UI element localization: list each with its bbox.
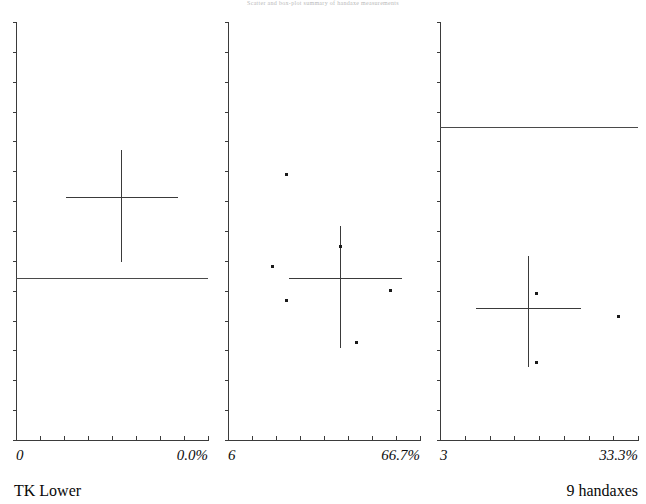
panel-3-y-tick — [437, 410, 441, 411]
panel-3-x-tick — [465, 436, 466, 441]
panel-2-x-tick — [300, 436, 301, 441]
panel-3-error-bar-horizontal — [476, 308, 581, 309]
panel-1-y-tick — [13, 410, 17, 411]
panel-3-data-point — [535, 361, 538, 364]
panel-3-y-tick — [437, 82, 441, 83]
panel-3-y-tick — [437, 171, 441, 172]
panel-1-x-tick — [208, 436, 209, 441]
figure-canvas: Scatter and box-plot summary of handaxe … — [0, 0, 646, 504]
panel-2-data-point — [271, 265, 274, 268]
panel-2-y-tick — [225, 380, 229, 381]
panel-2-y-tick — [225, 201, 229, 202]
panel-1-y-tick — [13, 22, 17, 23]
panel-1-x-tick — [136, 436, 137, 441]
panel-3-y-tick — [437, 22, 441, 23]
panel-1-y-tick — [13, 112, 17, 113]
panel-3-x-min-label: 3 — [440, 447, 448, 464]
panel-2-data-point — [355, 341, 358, 344]
panel-1-x-max-label: 0.0% — [108, 447, 208, 464]
panel-2-y-tick — [225, 410, 229, 411]
panel-2-x-tick — [396, 436, 397, 441]
panel-2-y-tick — [225, 291, 229, 292]
panel-3-x-tick — [514, 436, 515, 441]
panel-1-y-tick — [13, 261, 17, 262]
panel-3-y-tick — [437, 112, 441, 113]
panel-2-y-tick — [225, 22, 229, 23]
panel-2-y-tick — [225, 141, 229, 142]
panel-1-y-tick — [13, 141, 17, 142]
panel-2-data-point — [339, 245, 342, 248]
panel-3-x-max-label: 33.3% — [538, 447, 638, 464]
panel-3-y-tick — [437, 52, 441, 53]
panel-1-y-tick — [13, 231, 17, 232]
panel-2-x-min-label: 6 — [228, 447, 236, 464]
panel-3-x-tick — [613, 436, 614, 441]
panel-3-y-tick — [437, 261, 441, 262]
panel-2-data-point — [285, 173, 288, 176]
panel-2-x-tick — [372, 436, 373, 441]
caption-bottom-right: 9 handaxes — [508, 481, 638, 500]
panel-2-y-tick — [225, 52, 229, 53]
panel-2-x-tick — [276, 436, 277, 441]
panel-1-x-tick — [40, 436, 41, 441]
panel-3-y-tick — [437, 350, 441, 351]
panel-1-error-bar-vertical — [121, 150, 122, 262]
panel-1-error-bar-horizontal — [66, 197, 178, 198]
panel-1-x-tick — [88, 436, 89, 441]
panel-3-y-tick — [437, 380, 441, 381]
panel-3-data-point — [535, 292, 538, 295]
panel-1-x-tick — [160, 436, 161, 441]
panel-3-y-tick — [437, 321, 441, 322]
panel-2-x-tick — [324, 436, 325, 441]
panel-2-x-tick — [252, 436, 253, 441]
panel-3-x-tick — [539, 436, 540, 441]
panel-3-x-tick — [589, 436, 590, 441]
panel-2-y-tick — [225, 231, 229, 232]
panel-1-y-tick — [13, 171, 17, 172]
panel-1-y-tick — [13, 201, 17, 202]
panel-2-y-tick — [225, 82, 229, 83]
panel-1-y-tick — [13, 380, 17, 381]
panel-2-y-tick — [225, 112, 229, 113]
panel-1-y-tick — [13, 291, 17, 292]
panel-1-x-tick — [184, 436, 185, 441]
panel-1-x-min-label: 0 — [16, 447, 24, 464]
panel-3-y-tick — [437, 141, 441, 142]
panel-2-error-bar-horizontal — [289, 278, 402, 279]
panel-2-data-point — [389, 289, 392, 292]
panel-3-x-tick — [440, 436, 441, 441]
panel-1-reference-line — [16, 278, 208, 279]
panel-2-y-tick — [225, 171, 229, 172]
panel-1-y-tick — [13, 82, 17, 83]
figure-title: Scatter and box-plot summary of handaxe … — [0, 0, 646, 7]
panel-2-y-tick — [225, 261, 229, 262]
panel-3-x-tick — [490, 436, 491, 441]
panel-3-error-bar-vertical — [528, 256, 529, 367]
panel-2-x-tick — [228, 436, 229, 441]
panel-3-reference-line — [440, 127, 638, 128]
panel-3-y-tick — [437, 291, 441, 292]
panel-1-y-tick — [13, 52, 17, 53]
panel-2-x-tick — [420, 436, 421, 441]
panel-1-x-tick — [16, 436, 17, 441]
panel-1-x-tick — [112, 436, 113, 441]
panel-1-y-tick — [13, 350, 17, 351]
panel-2-y-tick — [225, 350, 229, 351]
panel-2-x-tick — [348, 436, 349, 441]
panel-2-y-tick — [225, 321, 229, 322]
panel-2-x-max-label: 66.7% — [320, 447, 420, 464]
caption-bottom-left: TK Lower — [14, 481, 81, 500]
panel-1-y-tick — [13, 321, 17, 322]
panel-1-x-tick — [64, 436, 65, 441]
panel-3-x-tick — [638, 436, 639, 441]
panel-2-data-point — [285, 299, 288, 302]
panel-3-data-point — [617, 315, 620, 318]
panel-3-y-tick — [437, 201, 441, 202]
panel-3-y-tick — [437, 231, 441, 232]
panel-3-x-tick — [564, 436, 565, 441]
